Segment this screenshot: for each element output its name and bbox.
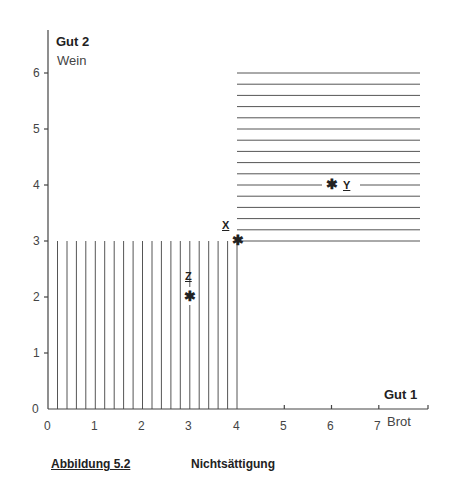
- point-y-marker-icon: ✱: [326, 176, 338, 192]
- point-x-marker-icon: ✱: [232, 232, 244, 248]
- point-x-label: X: [222, 219, 229, 231]
- point-y-label: Y: [343, 179, 350, 191]
- caption-title: Nichtsättigung: [191, 457, 275, 471]
- x-axis-title: Gut 1: [384, 387, 417, 402]
- point-z-marker-icon: ✱: [184, 288, 196, 304]
- x-tick-5: 5: [280, 419, 287, 433]
- x-tick-6: 6: [327, 419, 334, 433]
- caption-figure-number: Abbildung 5.2: [51, 457, 130, 471]
- y-tick-4: 4: [33, 178, 40, 192]
- y-tick-5: 5: [33, 122, 40, 136]
- vertical-hatching-region: [58, 241, 238, 409]
- x-tick-1: 1: [91, 419, 98, 433]
- axes: [44, 30, 428, 409]
- x-tick-4: 4: [233, 419, 240, 433]
- x-axis-subtitle: Brot: [387, 414, 411, 429]
- y-tick-0: 0: [32, 402, 39, 416]
- x-tick-7: 7: [374, 419, 381, 433]
- horizontal-hatching-region: [237, 73, 420, 241]
- y-tick-3: 3: [33, 234, 40, 248]
- x-tick-3: 3: [185, 419, 192, 433]
- point-z-label: Z: [185, 270, 192, 282]
- y-axis-title: Gut 2: [56, 34, 89, 49]
- diagram-canvas: [0, 0, 449, 485]
- x-tick-0: 0: [44, 419, 51, 433]
- y-tick-6: 6: [33, 66, 40, 80]
- y-tick-1: 1: [33, 346, 40, 360]
- y-axis-subtitle: Wein: [57, 53, 86, 68]
- x-tick-2: 2: [138, 419, 145, 433]
- y-tick-2: 2: [33, 290, 40, 304]
